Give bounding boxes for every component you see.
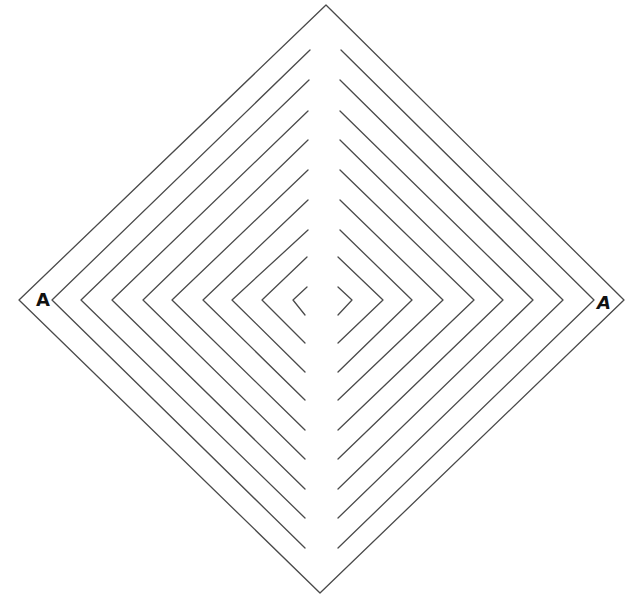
left-chevron-2: [81, 80, 309, 518]
outer-diamond: [19, 5, 624, 593]
right-chevron-1: [338, 50, 594, 548]
right-chevron-6: [338, 200, 443, 400]
left-chevron-group: [52, 50, 310, 548]
left-chevron-1: [52, 50, 310, 548]
right-chevron-5: [338, 170, 474, 430]
right-chevron-group: [338, 50, 594, 548]
left-chevron-8: [262, 257, 307, 343]
right-chevron-7: [338, 230, 412, 372]
right-chevron-2: [338, 80, 563, 518]
left-chevron-7: [232, 230, 308, 372]
right-chevron-9: [338, 287, 352, 315]
left-label-a: A: [36, 289, 50, 310]
diamond-maze-diagram: A A: [0, 0, 643, 612]
left-chevron-6: [203, 200, 308, 400]
right-chevron-8: [338, 257, 383, 343]
right-label-a: A: [595, 292, 611, 313]
right-chevron-4: [338, 140, 503, 459]
right-chevron-3: [338, 111, 533, 489]
left-chevron-9: [293, 287, 307, 315]
left-chevron-5: [172, 170, 308, 430]
